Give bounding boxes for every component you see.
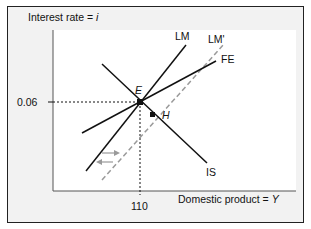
point-e-label: E	[135, 84, 143, 96]
fe-label: FE	[221, 53, 234, 65]
lm-label: LM	[175, 30, 190, 42]
point-h-marker	[150, 112, 155, 117]
x-axis-label: Domestic product = Y	[178, 193, 280, 205]
point-e-marker	[137, 99, 143, 105]
point-h-label: H	[162, 109, 170, 121]
x-tick-label: 110	[131, 200, 148, 212]
y-tick-label: 0.06	[17, 96, 38, 108]
lm-prime-label: LM'	[208, 33, 225, 45]
is-lm-fe-diagram: Interest rate = i Domestic product = Y 0…	[0, 0, 311, 229]
y-axis-label: Interest rate = i	[28, 11, 99, 23]
is-label: IS	[206, 166, 216, 178]
